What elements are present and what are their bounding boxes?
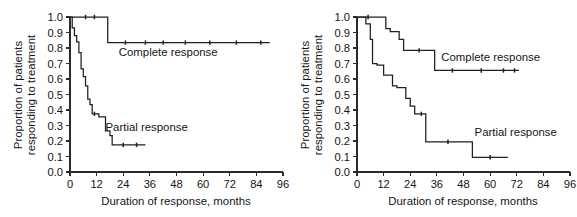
x-tick-label: 60 [484,178,496,190]
y-tick-label: 1.0 [47,11,63,23]
y-tick-labels-right: 0.00.10.20.30.40.50.60.70.80.91.0 [334,11,350,178]
y-tick-label: 0.9 [334,27,350,39]
y-tick-label: 0.2 [334,135,350,147]
y-tick-label: 0.8 [47,42,63,54]
y-ticks-left [66,17,70,172]
curve-label-partial: Partial response [106,121,188,133]
y-axis-title-right-line2: responding to treatment [312,34,324,155]
y-tick-label: 0.1 [334,151,350,163]
x-tick-label: 24 [404,178,416,190]
km-step-curve [70,17,270,43]
y-tick-label: 0.4 [47,104,63,116]
x-tick-label: 60 [197,178,209,190]
y-tick-label: 0.3 [47,120,63,132]
x-tick-label: 12 [377,178,389,190]
chart-panel-right: 0.00.10.20.30.40.50.60.70.80.91.0 012243… [287,0,577,217]
y-tick-label: 0.4 [334,104,350,116]
x-tick-labels-right: 01224364860728496 [354,178,576,190]
y-axis-title-left-line2: responding to treatment [25,34,37,155]
x-tick-label: 72 [511,178,523,190]
x-tick-label: 96 [564,178,576,190]
y-axis-title-left-line1: Proportion of patients [12,41,24,150]
x-axis-title-right: Duration of response, months [388,195,538,207]
x-tick-label: 0 [67,178,73,190]
x-tick-label: 36 [144,178,156,190]
curve-label-complete: Complete response [441,51,540,63]
y-tick-label: 0.6 [334,73,350,85]
x-ticks-left [70,172,283,176]
y-ticks-right [353,17,357,172]
km-curves-right [357,15,519,160]
x-tick-label: 24 [117,178,129,190]
y-tick-labels-left: 0.00.10.20.30.40.50.60.70.80.91.0 [47,11,63,178]
y-tick-label: 0.0 [47,166,63,178]
chart-svg-left: 0.00.10.20.30.40.50.60.70.80.91.0 012243… [0,0,290,217]
curve-labels-right: Complete responsePartial response [441,51,557,137]
x-axis-title-left: Duration of response, months [101,195,251,207]
x-tick-label: 84 [250,178,262,190]
chart-svg-right: 0.00.10.20.30.40.50.60.70.80.91.0 012243… [287,0,577,217]
y-tick-label: 1.0 [334,11,350,23]
chart-panel-left: 0.00.10.20.30.40.50.60.70.80.91.0 012243… [0,0,290,217]
x-tick-label: 0 [354,178,360,190]
x-tick-label: 48 [170,178,182,190]
y-tick-label: 0.5 [334,89,350,101]
y-tick-label: 0.7 [47,58,63,70]
y-tick-label: 0.8 [334,42,350,54]
y-tick-label: 0.7 [334,58,350,70]
x-tick-labels-left: 01224364860728496 [67,178,289,190]
y-tick-label: 0.2 [47,135,63,147]
x-ticks-right [357,172,570,176]
kaplan-meier-figure: 0.00.10.20.30.40.50.60.70.80.91.0 012243… [0,0,577,217]
y-tick-label: 0.5 [47,89,63,101]
x-tick-label: 48 [457,178,469,190]
curve-label-partial: Partial response [475,126,557,138]
x-tick-label: 12 [90,178,102,190]
curve-label-complete: Complete response [119,46,218,58]
x-tick-label: 72 [224,178,236,190]
y-tick-label: 0.1 [47,151,63,163]
curve-labels-left: Complete responsePartial response [106,46,218,133]
y-tick-label: 0.0 [334,166,350,178]
x-tick-label: 84 [537,178,549,190]
y-axis-title-right-line1: Proportion of patients [299,41,311,150]
y-tick-label: 0.9 [47,27,63,39]
y-tick-label: 0.3 [334,120,350,132]
x-tick-label: 36 [431,178,443,190]
y-tick-label: 0.6 [47,73,63,85]
